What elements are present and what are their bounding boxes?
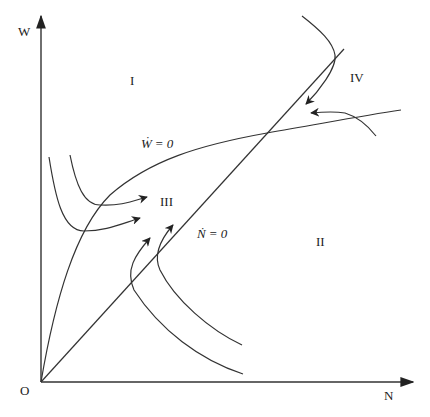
svg-text:Ṅ= 0: Ṅ= 0 xyxy=(196,226,228,241)
w-dot-zero-label: Ẇ= 0 xyxy=(141,136,174,151)
n-dot-symbol: Ṅ xyxy=(196,226,207,241)
w-dot-zero-curve xyxy=(41,110,401,382)
w-dot-equals: = 0 xyxy=(155,136,174,151)
n-dot-zero-line xyxy=(41,49,344,382)
region-I-upper-left-trajectory xyxy=(70,155,147,205)
origin-label: O xyxy=(20,383,29,398)
region-label-III: III xyxy=(160,194,173,209)
n-axis-label: N xyxy=(384,388,394,403)
n-dot-zero-label: Ṅ= 0 xyxy=(196,226,228,241)
region-label-IV: IV xyxy=(350,70,364,85)
region-label-I: I xyxy=(130,73,134,88)
region-II-inner-trajectory xyxy=(157,225,242,345)
phase-diagram: W N O Ẇ= 0 Ṅ= 0 I II III IV xyxy=(0,0,430,417)
w-axis-label: W xyxy=(18,24,31,39)
w-dot-symbol: Ẇ xyxy=(141,136,153,151)
region-I-lower-left-trajectory xyxy=(49,157,140,231)
svg-text:Ẇ= 0: Ẇ= 0 xyxy=(141,136,174,151)
region-IV-upper-trajectory xyxy=(302,16,335,104)
region-label-II: II xyxy=(316,234,325,249)
n-dot-equals: = 0 xyxy=(209,226,228,241)
